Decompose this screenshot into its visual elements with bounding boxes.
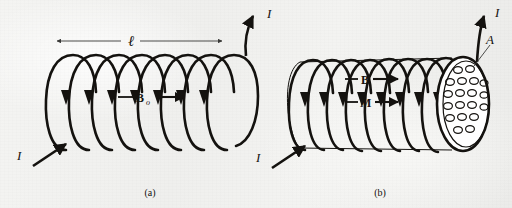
field-label-a-subscript: o	[146, 98, 150, 107]
current-in-label-b: I	[255, 150, 261, 165]
field-arrow-a-group: B o	[118, 91, 184, 107]
current-in-arrow-a	[33, 144, 66, 166]
current-in-arrow-b	[272, 146, 305, 168]
coil-turn-a-7	[184, 55, 234, 150]
current-out-label-a: I	[266, 6, 272, 21]
length-dimension-a: ℓ	[57, 33, 222, 49]
current-out-label-b: I	[494, 5, 500, 20]
endcap-b-group	[437, 57, 489, 151]
current-in-label-a: I	[16, 148, 22, 163]
magnetization-arrow-b-group: M	[345, 96, 398, 110]
field-label-b: B	[361, 73, 369, 87]
caption-b: (b)	[374, 187, 386, 199]
area-label-b: A	[485, 32, 494, 47]
coil-a	[46, 55, 258, 150]
current-lead-in-b: I	[255, 146, 305, 168]
magnetization-label-b: M	[360, 96, 371, 110]
physics-figure-solenoids: ℓ	[0, 0, 512, 208]
current-out-wire-a	[245, 16, 253, 56]
field-label-a: B	[136, 91, 144, 105]
panel-a-group: ℓ	[16, 6, 272, 199]
panel-b-group: B M I I A (b	[255, 5, 500, 199]
caption-a: (a)	[144, 187, 155, 199]
solenoid-diagram-svg: ℓ	[0, 0, 512, 208]
current-lead-out-a: I	[245, 6, 272, 56]
current-out-wire-b	[477, 16, 484, 62]
length-label-ell: ℓ	[128, 33, 134, 49]
coil-turn-a-8	[207, 55, 258, 150]
